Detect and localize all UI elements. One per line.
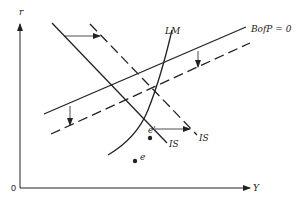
bp-shifted-curve (51, 43, 250, 134)
x-axis-label: Y (253, 183, 260, 193)
is-label: IS (168, 139, 179, 149)
axes (20, 24, 250, 188)
is-shifted-label: IS (198, 133, 209, 143)
is-lm-bp-diagram: r Y 0 LM BofP = 0 IS IS e e' (0, 0, 302, 198)
point-e-prime (148, 136, 152, 140)
bp-curve (44, 27, 246, 114)
bp-label: BofP = 0 (250, 24, 292, 34)
lm-label: LM (164, 26, 181, 36)
point-e (133, 159, 137, 163)
origin-label: 0 (11, 183, 16, 193)
point-e-prime-label: e' (148, 125, 156, 135)
point-e-label: e (140, 152, 145, 162)
lm-curve (108, 30, 172, 155)
y-axis-label: r (19, 7, 24, 17)
